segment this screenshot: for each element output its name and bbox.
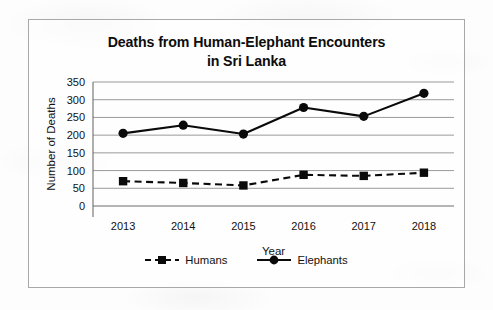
- data-point-elephants-2015: [239, 129, 248, 138]
- line-chart-svg: 0501001502002503003502013201420152016201…: [29, 20, 466, 289]
- y-tick-label-150: 150: [67, 147, 85, 159]
- chart-legend: Humans Elephants: [29, 254, 464, 266]
- y-tick-label-350: 350: [67, 76, 85, 88]
- legend-label-humans: Humans: [185, 254, 227, 266]
- y-tick-label-100: 100: [67, 165, 85, 177]
- y-tick-label-50: 50: [73, 182, 85, 194]
- x-tick-label-2016: 2016: [291, 220, 315, 232]
- legend-item-humans: Humans: [145, 254, 227, 266]
- series-line-humans: [123, 173, 424, 186]
- y-tick-label-0: 0: [79, 200, 85, 212]
- data-point-elephants-2016: [299, 103, 308, 112]
- data-point-humans-2014: [179, 179, 187, 187]
- data-point-elephants-2013: [118, 129, 127, 138]
- y-tick-label-300: 300: [67, 94, 85, 106]
- data-point-elephants-2018: [419, 89, 428, 98]
- y-tick-label-250: 250: [67, 111, 85, 123]
- data-point-humans-2016: [299, 171, 307, 179]
- data-point-humans-2018: [420, 168, 428, 176]
- chart-frame: Deaths from Human-Elephant Encounters in…: [28, 19, 465, 288]
- data-point-humans-2015: [239, 181, 247, 189]
- data-point-elephants-2014: [179, 121, 188, 130]
- data-point-humans-2013: [119, 177, 127, 185]
- x-tick-label-2014: 2014: [171, 220, 195, 232]
- x-tick-label-2017: 2017: [352, 220, 376, 232]
- legend-item-elephants: Elephants: [257, 254, 347, 266]
- legend-label-elephants: Elephants: [297, 254, 347, 266]
- y-axis-title: Number of Deaths: [45, 97, 57, 191]
- chart-page: Deaths from Human-Elephant Encounters in…: [0, 0, 493, 310]
- y-tick-label-200: 200: [67, 129, 85, 141]
- data-point-humans-2017: [360, 172, 368, 180]
- x-tick-label-2018: 2018: [412, 220, 436, 232]
- plot-area: 0501001502002503003502013201420152016201…: [29, 20, 466, 289]
- data-point-elephants-2017: [359, 112, 368, 121]
- legend-swatch-humans: [145, 254, 179, 266]
- x-tick-label-2015: 2015: [231, 220, 255, 232]
- legend-swatch-elephants: [257, 254, 291, 266]
- x-tick-label-2013: 2013: [111, 220, 135, 232]
